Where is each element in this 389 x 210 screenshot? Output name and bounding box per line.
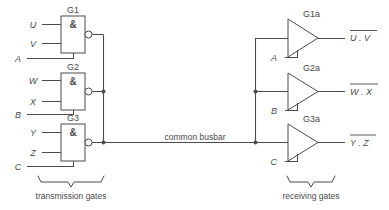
- label-input-u: U: [30, 20, 37, 30]
- label-enable-b-right: B: [271, 106, 277, 116]
- label-common-busbar: common busbar: [165, 132, 226, 142]
- label-gate-g1a: G1a: [303, 9, 320, 19]
- receiving-gates-brace-group: receiving gates: [282, 176, 339, 201]
- label-gate-g2a: G2a: [303, 63, 320, 73]
- label-g3-symbol: &: [69, 127, 76, 138]
- label-enable-a-right: A: [270, 53, 277, 63]
- label-enable-c-right: C: [271, 157, 278, 167]
- g1a-body: [288, 19, 318, 57]
- label-gate-g3a: G3a: [303, 114, 320, 124]
- g3-inversion-bubble: [85, 139, 92, 146]
- label-g2-symbol: &: [69, 76, 76, 87]
- wire-c-to-g3-enable: [27, 161, 73, 166]
- label-input-z: Z: [29, 148, 36, 158]
- transmission-gate-g2: W X B G2 &: [15, 62, 104, 120]
- label-output-uv: U . V: [350, 33, 371, 43]
- receiving-gate-g3a: C G3a Y . Z: [256, 114, 377, 167]
- label-enable-b-left: B: [15, 110, 21, 120]
- label-enable-a-left: A: [14, 54, 21, 64]
- wire-a-to-g1-enable: [27, 53, 73, 58]
- label-input-y: Y: [30, 128, 37, 138]
- label-input-x: X: [29, 97, 37, 107]
- label-input-w: W: [29, 76, 39, 86]
- transmission-gates-brace: [38, 176, 104, 187]
- transmission-gate-g3: Y Z C G3 &: [15, 113, 104, 172]
- caption-receiving-gates: receiving gates: [282, 191, 339, 201]
- g2a-body: [288, 73, 318, 110]
- circuit-diagram: U V A G1 & W X B G2 & Y: [0, 0, 389, 210]
- label-gate-g1: G1: [67, 5, 79, 15]
- label-gate-g2: G2: [67, 62, 79, 72]
- label-input-v: V: [30, 39, 37, 49]
- receiving-gates-brace: [287, 176, 335, 187]
- left-collector-bus: [102, 35, 106, 145]
- label-enable-c-left: C: [15, 162, 22, 172]
- receiving-gate-g1a: A G1a U . V: [256, 9, 378, 63]
- g3a-body: [288, 124, 318, 161]
- transmission-gate-g1: U V A G1 &: [14, 5, 103, 64]
- label-gate-g3: G3: [67, 113, 79, 123]
- g2-inversion-bubble: [85, 88, 92, 95]
- label-output-yz: Y . Z: [350, 138, 369, 148]
- junction-left-g2: [102, 90, 106, 94]
- caption-transmission-gates: transmission gates: [36, 191, 107, 201]
- label-output-wx: W . X: [350, 87, 373, 97]
- circuit-svg: U V A G1 & W X B G2 & Y: [0, 0, 389, 210]
- transmission-gates-brace-group: transmission gates: [36, 176, 107, 201]
- g1-inversion-bubble: [85, 31, 92, 38]
- label-g1-symbol: &: [69, 19, 76, 30]
- receiving-gate-g2a: B G2a W . X: [256, 63, 379, 116]
- common-busbar: common busbar: [104, 132, 286, 143]
